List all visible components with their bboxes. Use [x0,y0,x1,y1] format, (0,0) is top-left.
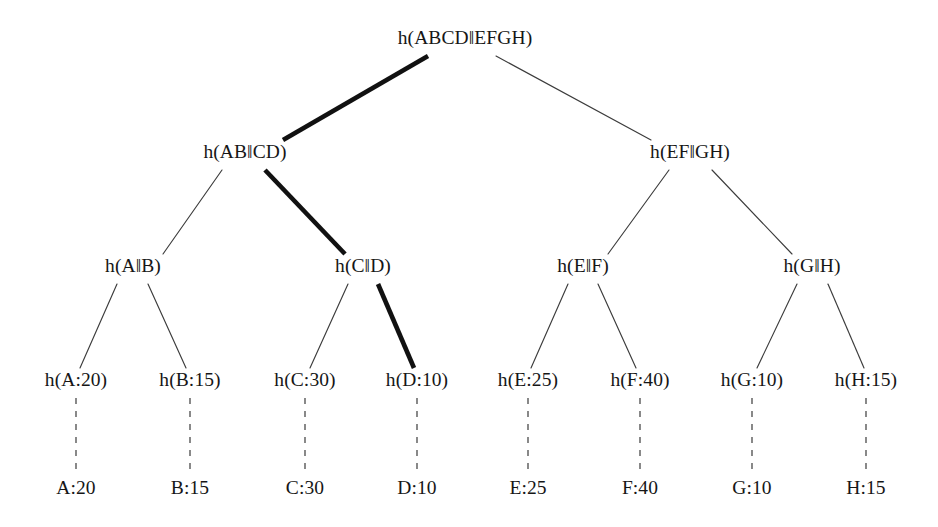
edge-root-to-ab-cd [283,56,428,140]
data-leaf-h: H:15 [846,477,885,498]
node-c-d: h(C‖D) [335,255,391,277]
edge-root-to-ef-gh [496,56,651,140]
data-leaf-f: F:40 [622,477,658,498]
edge-e-f-to-h-e [531,284,568,368]
edge-g-h-to-h-h [828,284,864,368]
data-leaf-d: D:10 [397,477,436,498]
data-leaf-g: G:10 [732,477,771,498]
edge-a-b-to-h-a [80,284,117,368]
node-h-e: h(E:25) [498,369,558,391]
node-h-a: h(A:20) [45,369,107,391]
edge-e-f-to-h-f [598,284,636,368]
node-root: h(ABCD‖EFGH) [398,27,533,49]
node-ab-cd: h(AB‖CD) [203,141,286,163]
node-h-d: h(D:10) [386,369,448,391]
edge-ef-gh-to-g-h [712,170,792,254]
node-ef-gh: h(EF‖GH) [650,141,730,163]
node-h-g: h(G:10) [721,369,783,391]
edge-ab-cd-to-a-b [163,170,222,254]
edge-c-d-to-h-c [310,284,348,368]
data-leaf-c: C:30 [286,477,324,498]
node-a-b: h(A‖B) [105,255,161,277]
node-h-h: h(H:15) [835,369,897,391]
data-leaf-b: B:15 [171,477,209,498]
node-h-b: h(B:15) [159,369,220,391]
edge-ab-cd-to-c-d [265,170,345,254]
merkle-tree-diagram: h(ABCD‖EFGH) h(AB‖CD) h(EF‖GH) h(A‖B) h(… [0,0,938,527]
data-leaf-a: A:20 [56,477,95,498]
node-g-h: h(G‖H) [784,255,841,277]
tree-canvas: h(ABCD‖EFGH) h(AB‖CD) h(EF‖GH) h(A‖B) h(… [0,0,938,527]
data-leaf-e: E:25 [509,477,546,498]
node-h-c: h(C:30) [274,369,335,391]
edge-g-h-to-h-g [757,284,797,368]
edge-c-d-to-h-d [378,284,414,368]
edge-ef-gh-to-e-f [608,170,669,254]
node-h-f: h(F:40) [610,369,669,391]
node-e-f: h(E‖F) [557,255,609,277]
edge-a-b-to-h-b [148,284,186,368]
